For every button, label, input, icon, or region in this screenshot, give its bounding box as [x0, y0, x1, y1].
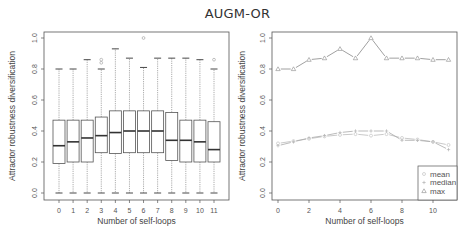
- x-axis-label: Number of self-loops: [97, 216, 175, 226]
- circle-marker: [447, 143, 450, 146]
- x-tick-label: 2: [85, 207, 89, 214]
- y-tick-label: 0.6: [31, 95, 38, 105]
- x-tick-label: 8: [170, 207, 174, 214]
- series-segment: [327, 133, 337, 135]
- box-4: [109, 49, 121, 193]
- x-tick-label: 1: [71, 207, 75, 214]
- y-tick-label: 1.0: [31, 33, 38, 43]
- box-7: [152, 58, 164, 193]
- box-1: [67, 69, 79, 193]
- iqr-box: [53, 120, 65, 163]
- box-0: [53, 69, 65, 193]
- triangle-marker: [415, 56, 419, 60]
- box-11: [208, 58, 220, 193]
- iqr-box: [166, 112, 178, 160]
- chart-canvas: 0.00.20.40.60.81.001234567891011Number o…: [0, 0, 475, 237]
- series-segment: [420, 58, 430, 59]
- plus-marker: [385, 129, 388, 132]
- boxplot-panel: 0.00.20.40.60.81.001234567891011Number o…: [7, 32, 229, 226]
- circle-marker: [354, 133, 357, 136]
- triangle-marker: [307, 58, 311, 62]
- x-tick-label: 6: [142, 207, 146, 214]
- y-axis-label: Attractor robustness diversification: [237, 51, 247, 181]
- triangle-marker: [291, 67, 295, 71]
- triangle-marker: [446, 58, 450, 62]
- plus-marker: [354, 129, 357, 132]
- plus-marker: [447, 148, 450, 151]
- y-tick-label: 0.0: [259, 188, 266, 198]
- x-tick-label: 5: [128, 207, 132, 214]
- x-tick-label: 6: [369, 207, 373, 214]
- box-10: [194, 60, 206, 193]
- series-segment: [312, 58, 322, 59]
- series-segment: [373, 40, 385, 56]
- circle-marker: [370, 134, 373, 137]
- triangle-marker: [353, 56, 357, 60]
- box-8: [166, 58, 178, 193]
- series-segment: [374, 134, 384, 135]
- y-axis-label: Attractor robustness diversification: [7, 51, 17, 181]
- y-tick-label: 0.2: [259, 157, 266, 167]
- x-tick-label: 11: [210, 207, 217, 214]
- x-tick-label: 7: [156, 207, 160, 214]
- x-tick-label: 0: [57, 207, 61, 214]
- iqr-box: [81, 120, 93, 162]
- outlier-point: [213, 58, 216, 61]
- legend: meanmedianmax: [418, 166, 457, 200]
- y-tick-label: 0.4: [259, 126, 266, 136]
- y-tick-label: 0.4: [31, 126, 38, 136]
- y-tick-label: 0.2: [31, 157, 38, 167]
- y-tick-label: 0.8: [31, 64, 38, 74]
- series-segment: [389, 132, 400, 138]
- plot-frame: [44, 32, 229, 200]
- x-tick-label: 2: [307, 207, 311, 214]
- box-6: [138, 37, 150, 193]
- triangle-marker: [322, 56, 326, 60]
- circle-marker: [385, 133, 388, 136]
- series-segment: [327, 135, 337, 136]
- triangle-marker: [431, 58, 435, 62]
- line-chart-panel: 0.00.20.40.60.81.00246810meanmedianmaxNu…: [237, 32, 457, 226]
- x-tick-label: 10: [429, 207, 437, 214]
- series-segment: [342, 50, 353, 56]
- x-tick-label: 4: [338, 207, 342, 214]
- series-segment: [296, 61, 307, 67]
- series-segment: [357, 40, 369, 56]
- triangle-marker: [369, 36, 373, 40]
- outlier-point: [100, 58, 103, 61]
- x-tick-label: 4: [113, 207, 117, 214]
- y-tick-label: 0.8: [259, 64, 266, 74]
- outlier-point: [100, 61, 103, 64]
- x-tick-label: 10: [196, 207, 204, 214]
- triangle-marker: [384, 56, 388, 60]
- y-tick-label: 1.0: [259, 33, 266, 43]
- series-segment: [358, 134, 368, 135]
- box-5: [123, 58, 135, 193]
- series-segment: [420, 141, 430, 142]
- iqr-box: [208, 122, 220, 162]
- series-max: [276, 36, 451, 71]
- x-tick-label: 3: [99, 207, 103, 214]
- box-2: [81, 60, 93, 193]
- y-tick-label: 0.6: [259, 95, 266, 105]
- series-segment: [327, 50, 338, 56]
- x-axis-label: Number of self-loops: [325, 216, 403, 226]
- legend-label-max: max: [430, 187, 445, 196]
- outlier-point: [142, 37, 145, 40]
- box-3: [95, 58, 107, 193]
- triangle-marker: [276, 67, 280, 71]
- series-segment: [343, 131, 353, 132]
- plus-marker: [369, 129, 372, 132]
- triangle-marker: [338, 47, 342, 51]
- y-tick-label: 0.0: [31, 188, 38, 198]
- triangle-marker: [400, 56, 404, 60]
- series-segment: [405, 138, 415, 139]
- x-tick-label: 9: [184, 207, 188, 214]
- x-tick-label: 0: [276, 207, 280, 214]
- series-segment: [296, 139, 306, 142]
- box-9: [180, 58, 192, 193]
- x-tick-label: 8: [400, 207, 404, 214]
